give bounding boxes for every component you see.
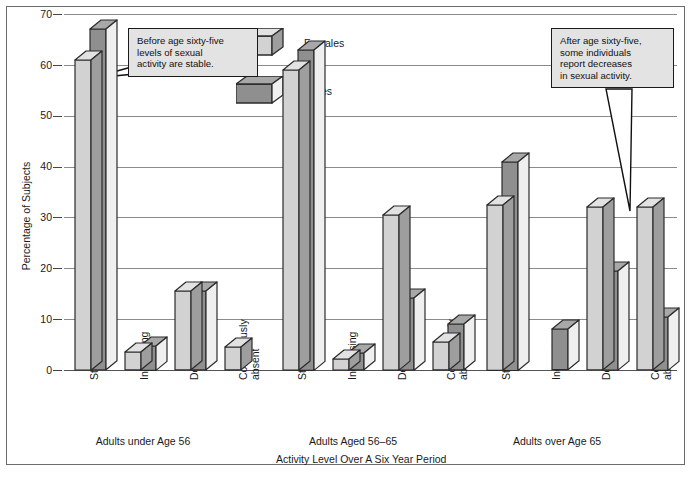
callout1-line1: Before age sixty-five xyxy=(137,35,249,47)
callout2-line1: After age sixty-five, xyxy=(560,35,665,47)
bar-females-decreasing-group1 xyxy=(174,291,190,370)
bar-males-increasing-group3 xyxy=(551,329,567,370)
gridline-50 xyxy=(64,116,677,117)
group-label-under-56: Adults under Age 56 xyxy=(48,435,238,447)
callout1-line3: activity are stable. xyxy=(137,58,249,70)
y-tick-70 xyxy=(53,14,62,15)
callout-pointer-right xyxy=(596,88,656,213)
y-tick-10 xyxy=(53,319,62,320)
y-tick-0 xyxy=(53,370,62,371)
group-label-over-65: Adults over Age 65 xyxy=(462,435,652,447)
y-tick-30 xyxy=(53,217,62,218)
bar-females-stable-group3 xyxy=(486,205,502,370)
y-axis-title-container: Percentage of Subjects xyxy=(14,60,30,300)
y-tick-40 xyxy=(53,167,62,168)
bar-females-decreasing-group2 xyxy=(382,215,398,370)
bar-females-continuously-absent-group2 xyxy=(432,342,448,370)
gridline-70 xyxy=(64,14,677,15)
x-axis-title: Activity Level Over A Six Year Period xyxy=(276,453,446,465)
callout2-line2: some individuals xyxy=(560,47,665,59)
bar-females-continuously-absent-group1 xyxy=(224,347,240,370)
bar-females-continuously-absent-group3 xyxy=(636,207,652,370)
y-tick-label-70: 70 xyxy=(22,9,52,19)
callout-after-sixty-five: After age sixty-five, some individuals r… xyxy=(551,28,674,88)
bar-females-stable-group1 xyxy=(74,60,90,370)
bar-females-stable-group2 xyxy=(282,70,298,370)
bar-females-increasing-group1 xyxy=(124,352,140,370)
gridline-40 xyxy=(64,167,677,168)
y-axis-title: Percentage of Subjects xyxy=(20,106,32,326)
y-tick-50 xyxy=(53,116,62,117)
callout1-line2: levels of sexual xyxy=(137,47,249,59)
callout2-line3: report decreases xyxy=(560,58,665,70)
y-tick-label-0: 0 xyxy=(22,365,52,375)
bar-females-increasing-group2 xyxy=(332,359,348,370)
figure-chart-sexual-activity: 70 60 50 40 30 20 10 0 Percentage of Sub… xyxy=(0,0,691,480)
callout-before-sixty-five: Before age sixty-five levels of sexual a… xyxy=(128,28,258,77)
y-tick-20 xyxy=(53,268,62,269)
group-label-56-65: Adults Aged 56–65 xyxy=(258,435,448,447)
callout2-line4: in sexual activity. xyxy=(560,70,665,82)
bar-females-decreasing-group3 xyxy=(586,207,602,370)
y-tick-60 xyxy=(53,65,62,66)
